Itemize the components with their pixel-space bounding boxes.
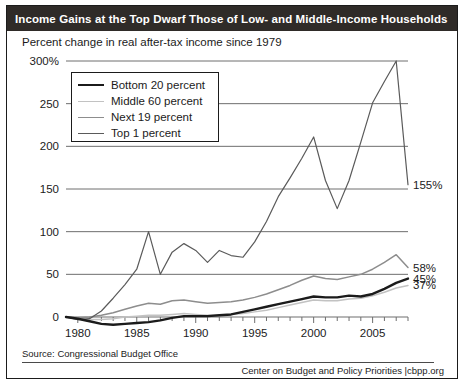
source-note: Source: Congressional Budget Office: [22, 348, 178, 359]
legend-item: Bottom 20 percent: [78, 77, 212, 93]
chart-subtitle: Percent change in real after-tax income …: [22, 36, 282, 48]
legend-item: Top 1 percent: [78, 125, 212, 141]
legend-item: Next 19 percent: [78, 109, 212, 125]
legend-swatch-next-19: [78, 117, 104, 118]
title-bar: Income Gains at the Top Dwarf Those of L…: [7, 6, 457, 31]
legend-label: Bottom 20 percent: [111, 77, 205, 93]
legend-label: Top 1 percent: [111, 125, 181, 141]
legend-item: Middle 60 percent: [78, 93, 212, 109]
legend-label: Middle 60 percent: [111, 93, 202, 109]
legend-label: Next 19 percent: [111, 109, 192, 125]
legend-swatch-bottom-20: [78, 84, 104, 86]
legend-swatch-middle-60: [78, 101, 104, 102]
figure-border: [6, 5, 458, 379]
footer-divider: [22, 362, 434, 363]
legend-swatch-top-1: [78, 133, 104, 134]
page-title: Income Gains at the Top Dwarf Those of L…: [7, 13, 448, 25]
chart-figure: Income Gains at the Top Dwarf Those of L…: [0, 0, 466, 386]
credit-note: Center on Budget and Policy Priorities |…: [241, 365, 444, 376]
chart-legend: Bottom 20 percent Middle 60 percent Next…: [71, 72, 219, 142]
